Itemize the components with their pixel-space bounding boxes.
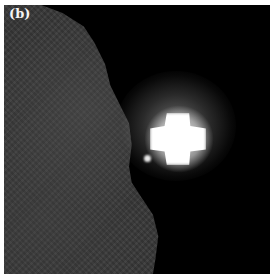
micrograph-panel (4, 5, 270, 274)
small-bright-speck (144, 155, 151, 162)
panel-label: (b) (9, 6, 30, 21)
